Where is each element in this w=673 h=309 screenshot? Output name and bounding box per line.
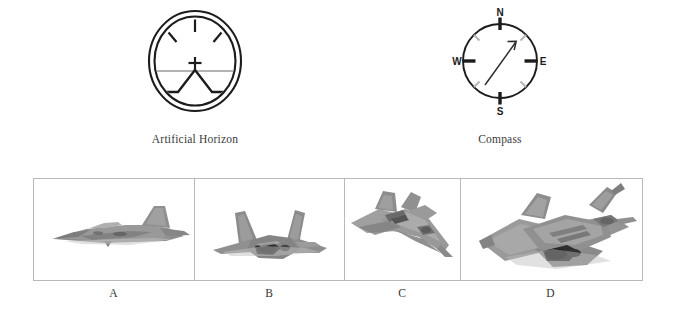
panel-label-a: A (33, 284, 194, 306)
aircraft-panel-b (195, 179, 345, 280)
aircraft-panel-a (34, 179, 195, 280)
compass-major-ticks (463, 18, 537, 105)
aircraft-image-b (195, 179, 345, 280)
compass-label-w: W (452, 56, 462, 67)
aircraft-view-strip (33, 178, 643, 281)
tick-upper-right (214, 33, 222, 43)
panel-label-c: C (344, 284, 460, 306)
tick-upper-left (169, 33, 177, 43)
crosshair-symbol (189, 57, 202, 70)
compass-minor-ticks (474, 35, 526, 87)
aircraft-image-d (461, 179, 642, 280)
panel-label-b: B (194, 284, 344, 306)
compass-label-s: S (497, 106, 504, 116)
compass-gauge: N E S W (452, 6, 548, 116)
artificial-horizon-caption: Artificial Horizon (75, 133, 315, 145)
artificial-horizon-gauge (146, 8, 244, 114)
compass-label-e: E (540, 56, 547, 67)
compass-label-n: N (496, 7, 503, 18)
instruments-row: Artificial Horizon (0, 0, 673, 165)
compass-heading-needle (485, 41, 516, 85)
aircraft-panel-d (461, 179, 642, 280)
panel-label-row: A B C D (33, 284, 643, 306)
aircraft-panel-c (345, 179, 461, 280)
panel-label-d: D (460, 284, 641, 306)
compass-caption: Compass (380, 133, 620, 145)
aircraft-image-c (345, 179, 461, 280)
aircraft-image-a (34, 179, 195, 280)
